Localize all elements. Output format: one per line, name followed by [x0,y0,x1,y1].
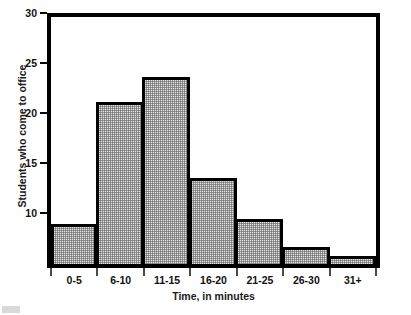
y-tick-label-20: 20 [0,108,37,118]
y-tick-25 [40,62,47,64]
bar-6-10 [96,102,144,264]
y-tick-15 [40,162,47,164]
x-axis-title: Time, in minutes [47,290,380,302]
bar-16-20 [189,178,237,264]
y-axis-title: Students who come to office [16,16,28,256]
bar-31+ [328,256,376,264]
y-tick-10 [40,212,47,214]
histogram-figure: Students who come to office 1015202530 0… [0,0,411,315]
bar-26-30 [282,247,330,264]
x-tick-label-31+: 31+ [323,274,383,286]
plot-area [47,13,380,268]
bar-11-15 [142,77,190,264]
y-tick-label-30: 30 [0,8,37,18]
bar-21-25 [235,219,283,264]
bar-0-5 [51,224,97,264]
y-tick-label-25: 25 [0,58,37,68]
y-tick-30 [40,12,47,14]
y-tick-label-10: 10 [0,208,37,218]
scan-artifact [2,306,20,313]
y-tick-label-15: 15 [0,158,37,168]
bars-container [51,17,376,264]
y-tick-20 [40,112,47,114]
